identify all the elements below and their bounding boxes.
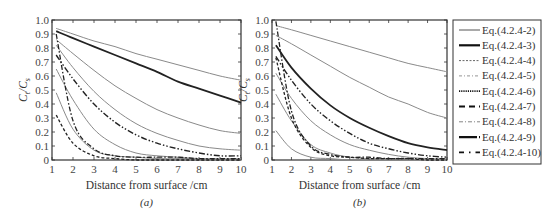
y-tick-label: 0.8 [35,42,49,54]
y-tick-label: 0.4 [35,98,49,110]
x-tick-label: 1 [49,163,55,175]
series-line [276,21,447,158]
y-tick-label: 0 [264,154,270,166]
panel-b: 1234567891000.10.20.30.40.50.60.70.80.91… [237,14,453,210]
panel-caption: (a) [140,196,153,209]
x-tick-label: 5 [133,163,139,175]
panel-caption: (b) [353,196,366,209]
x-tick-label: 9 [217,163,223,175]
y-tick-label: 0.6 [255,70,269,82]
y-tick-label: 0 [44,154,50,166]
y-tick-label: 0.9 [35,28,49,40]
series-line [56,45,241,150]
x-axis-label: Distance from surface /cm [299,179,421,191]
y-tick-label: 1.0 [35,14,49,26]
y-tick-label: 0.7 [35,56,49,68]
series-line [56,115,241,160]
x-tick-label: 1 [269,163,275,175]
series-line [56,28,241,80]
x-axis-label: Distance from surface /cm [86,179,208,191]
y-tick-label: 0.6 [35,70,49,82]
x-tick-label: 10 [236,163,248,175]
legend-label: Eq.(4.2.4-5) [482,69,536,82]
legend-label: Eq.(4.2.4-9) [482,131,536,144]
series-line [276,56,447,157]
legend-label: Eq.(4.2.4-4) [482,54,536,67]
legend-label: Eq.(4.2.4-10) [482,146,541,159]
x-tick-label: 8 [405,163,411,175]
x-tick-label: 4 [328,163,334,175]
x-tick-label: 3 [91,163,97,175]
x-tick-label: 5 [347,163,353,175]
legend-label: Eq.(4.2.4-8) [482,115,536,128]
y-tick-label: 0.7 [255,56,269,68]
x-tick-label: 10 [442,163,454,175]
legend-label: Eq.(4.2.4-3) [482,39,536,52]
figure: 1234567891000.10.20.30.40.50.60.70.80.91… [0,0,557,221]
series-line [56,69,241,159]
x-tick-label: 4 [112,163,118,175]
y-tick-label: 0.1 [255,140,269,152]
series-line [276,94,447,160]
series-line [276,58,447,160]
y-tick-label: 0.3 [255,112,269,124]
x-tick-label: 9 [425,163,431,175]
series-line [276,26,447,72]
x-tick-label: 3 [308,163,314,175]
y-tick-label: 0.9 [255,28,269,40]
panel-a: 1234567891000.10.20.30.40.50.60.70.80.91… [17,14,247,210]
x-tick-label: 6 [154,163,160,175]
y-tick-label: 0.8 [255,42,269,54]
x-tick-label: 8 [196,163,202,175]
legend-label: Eq.(4.2.4-2) [482,24,536,37]
legend-label: Eq.(4.2.4-6) [482,85,536,98]
y-tick-label: 0.1 [35,140,49,152]
plot-frame [272,20,447,160]
y-axis-label: Ct/Cs [17,78,32,102]
y-axis-label: Ct/Cs [237,78,252,102]
x-tick-label: 2 [289,163,295,175]
series-line [276,35,447,118]
series-line [56,93,241,160]
x-tick-label: 6 [366,163,372,175]
legend: Eq.(4.2.4-2)Eq.(4.2.4-3)Eq.(4.2.4-4)Eq.(… [453,20,541,164]
series-line [56,34,241,159]
y-tick-label: 1.0 [255,14,269,26]
y-tick-label: 0.4 [255,98,269,110]
x-tick-label: 2 [70,163,76,175]
y-tick-label: 0.5 [255,84,269,96]
y-tick-label: 0.3 [35,112,49,124]
series-line [56,40,241,134]
x-tick-label: 7 [175,163,181,175]
legend-label: Eq.(4.2.4-7) [482,100,536,113]
y-tick-label: 0.2 [255,126,269,138]
y-tick-label: 0.5 [35,84,49,96]
x-tick-label: 7 [386,163,392,175]
y-tick-label: 0.2 [35,126,49,138]
